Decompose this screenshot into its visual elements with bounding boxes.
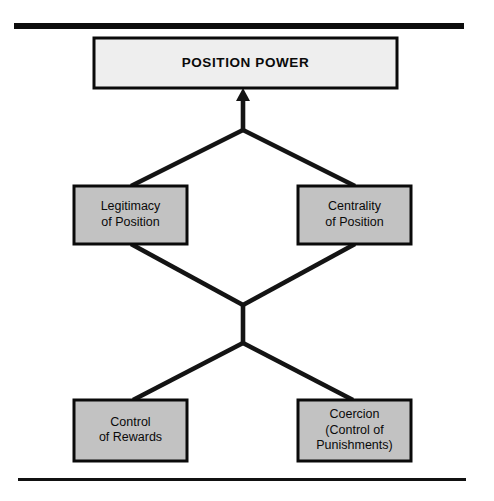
node-legitimacy-of-position: Legitimacyof Position	[74, 186, 187, 244]
node-label-line: of Position	[101, 215, 159, 229]
middle-v-right	[243, 244, 355, 305]
upper-v-right	[243, 130, 355, 186]
node-position-power: POSITION POWER	[94, 38, 397, 88]
node-label-line: POSITION POWER	[182, 55, 310, 70]
upper-v-left	[131, 130, 243, 186]
node-label-line: of Rewards	[99, 431, 162, 445]
middle-v-left	[131, 244, 243, 305]
node-label-centrality-of-position: Centralityof Position	[325, 200, 383, 230]
position-power-diagram: POSITION POWERLegitimacyof PositionCentr…	[0, 0, 494, 501]
node-label-position-power: POSITION POWER	[182, 55, 310, 70]
top-divider-rule	[14, 23, 464, 29]
node-centrality-of-position: Centralityof Position	[298, 186, 411, 244]
arrow-head-icon	[236, 88, 250, 101]
diagram-canvas: POSITION POWERLegitimacyof PositionCentr…	[0, 0, 494, 501]
bottom-divider-rule	[18, 478, 466, 481]
node-label-line: Legitimacy	[101, 200, 161, 214]
node-label-line: Control	[110, 415, 150, 429]
node-control-of-rewards: Controlof Rewards	[74, 400, 187, 461]
lower-v-right	[243, 343, 353, 400]
node-label-legitimacy-of-position: Legitimacyof Position	[101, 200, 161, 230]
lower-v-left	[133, 343, 243, 400]
node-coercion-control-of-punishments: Coercion(Control ofPunishments)	[298, 400, 411, 461]
node-label-line: Coercion	[329, 407, 379, 421]
node-label-line: Punishments)	[316, 438, 392, 452]
node-label-line: of Position	[325, 215, 383, 229]
node-label-line: (Control of	[325, 423, 384, 437]
node-label-line: Centrality	[328, 200, 382, 214]
